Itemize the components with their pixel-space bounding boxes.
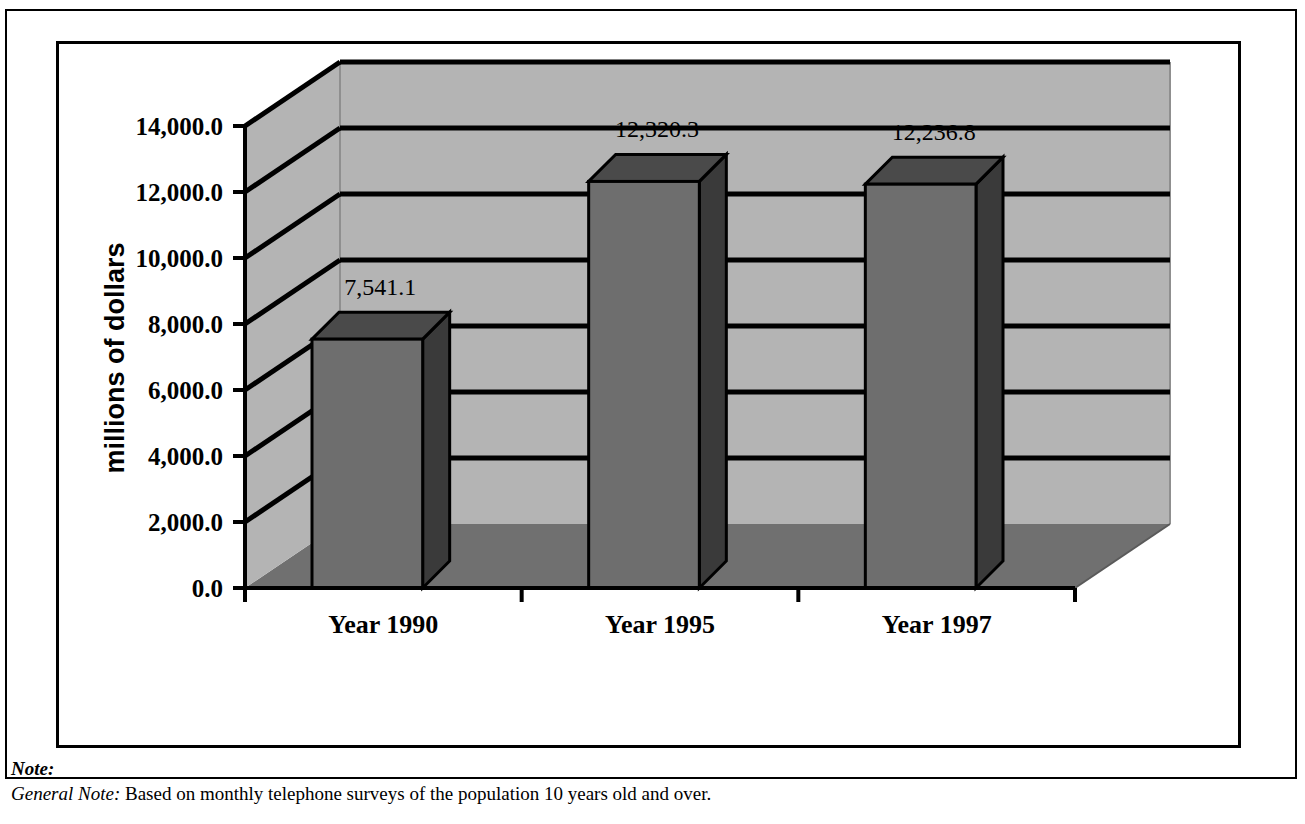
- x-category-label: Year 1995: [605, 610, 715, 639]
- bar-2: [589, 154, 727, 588]
- data-label: 7,541.1: [344, 274, 416, 300]
- y-tick-label: 6,000.0: [148, 377, 223, 404]
- bar-3: [865, 157, 1003, 588]
- y-tick-label: 14,000.0: [136, 113, 224, 140]
- general-note-line: General Note: Based on monthly telephone…: [11, 781, 1291, 806]
- chart-page: 0.02,000.04,000.06,000.08,000.010,000.01…: [0, 0, 1305, 824]
- note-heading: Note:: [11, 756, 1291, 781]
- bar-chart-svg: 0.02,000.04,000.06,000.08,000.010,000.01…: [0, 0, 1305, 824]
- note-block: Note: General Note: Based on monthly tel…: [11, 756, 1291, 806]
- back-wall-plane: [340, 62, 1170, 524]
- y-tick-label: 2,000.0: [148, 509, 223, 536]
- bar-front-face: [865, 184, 976, 588]
- bar-side-face: [423, 312, 450, 588]
- chart-graphic: 0.02,000.04,000.06,000.08,000.010,000.01…: [0, 0, 1305, 824]
- bar-front-face: [589, 181, 700, 588]
- bar-side-face: [976, 157, 1003, 588]
- y-axis-title-text: millions of dollars: [100, 242, 130, 473]
- data-label: 12,236.8: [892, 119, 976, 145]
- y-tick-label: 0.0: [192, 575, 223, 602]
- x-axis: [245, 588, 1075, 602]
- y-tick-label: 10,000.0: [136, 245, 224, 272]
- y-axis: [233, 126, 245, 588]
- general-note-text: Based on monthly telephone surveys of th…: [125, 783, 711, 804]
- x-category-labels: Year 1990Year 1995Year 1997: [328, 610, 991, 639]
- y-axis-title: millions of dollars: [100, 242, 130, 473]
- y-tick-label: 8,000.0: [148, 311, 223, 338]
- bar-front-face: [312, 339, 423, 588]
- y-tick-label: 4,000.0: [148, 443, 223, 470]
- y-tick-label: 12,000.0: [136, 179, 224, 206]
- y-tick-labels: 0.02,000.04,000.06,000.08,000.010,000.01…: [136, 113, 224, 602]
- bar-1: [312, 312, 450, 588]
- x-category-label: Year 1990: [328, 610, 438, 639]
- x-category-label: Year 1997: [882, 610, 992, 639]
- bar-side-face: [699, 154, 726, 588]
- data-label: 12,320.3: [615, 116, 699, 142]
- general-note-label: General Note:: [11, 783, 120, 804]
